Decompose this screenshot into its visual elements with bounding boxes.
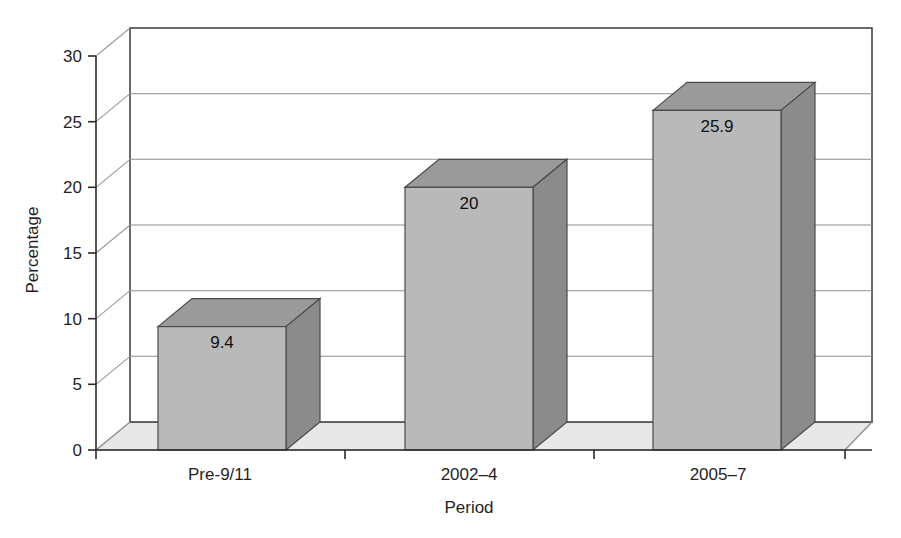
bar-front-face-1 — [405, 187, 533, 450]
y-tick-label-20: 20 — [63, 178, 82, 197]
y-tick-label-15: 15 — [63, 244, 82, 263]
y-tick-label-30: 30 — [63, 47, 82, 66]
bar-value-label-2: 25.9 — [700, 117, 733, 136]
bar-side-face-1 — [533, 159, 567, 450]
x-axis-category-labels: Pre-9/11 2002–4 2005–7 — [188, 465, 746, 484]
y-tick-label-10: 10 — [63, 310, 82, 329]
x-axis-title: Period — [444, 498, 493, 517]
y-axis-tick-labels: 30 25 20 15 10 5 0 — [63, 47, 82, 460]
bar-group-2[interactable]: 25.9 — [653, 82, 815, 450]
x-category-label-0: Pre-9/11 — [188, 465, 252, 484]
bar-front-face-2 — [653, 110, 781, 450]
chart-figure: 9.4 20 25.9 — [0, 0, 901, 538]
bar-side-face-2 — [781, 82, 815, 450]
x-category-label-2: 2005–7 — [690, 465, 747, 484]
y-tick-label-0: 0 — [73, 441, 82, 460]
y-tick-label-25: 25 — [63, 113, 82, 132]
x-category-label-1: 2002–4 — [441, 465, 498, 484]
y-axis-title: Percentage — [23, 207, 42, 294]
bar-chart-canvas: 9.4 20 25.9 — [0, 0, 901, 538]
bar-group-1[interactable]: 20 — [405, 159, 567, 450]
y-axis-ticks — [88, 56, 96, 450]
bar-value-label-0: 9.4 — [210, 333, 234, 352]
bar-value-label-1: 20 — [460, 194, 479, 213]
x-axis-ticks — [96, 450, 845, 459]
y-tick-label-5: 5 — [73, 375, 82, 394]
bar-group-0[interactable]: 9.4 — [158, 299, 320, 450]
